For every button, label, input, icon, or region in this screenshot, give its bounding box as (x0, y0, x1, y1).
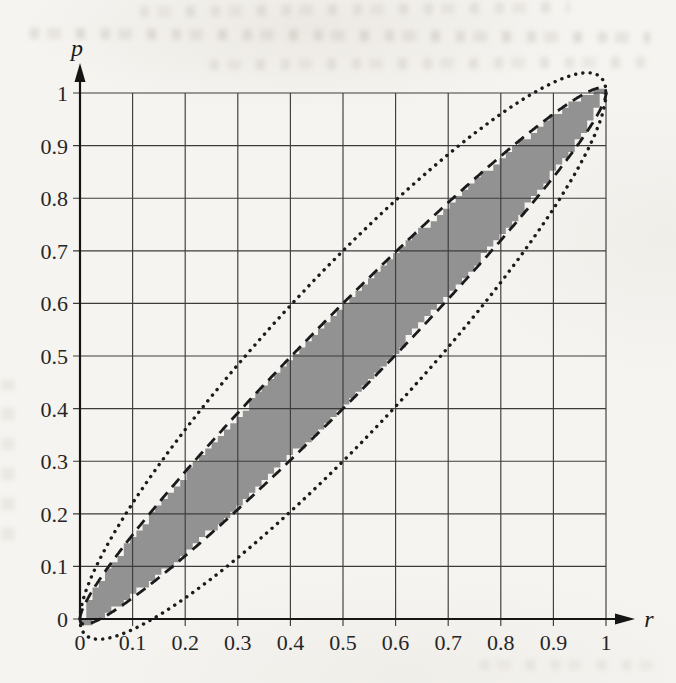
scanned-book-page: 00.10.20.30.40.50.60.70.80.9100.10.20.30… (0, 0, 676, 683)
y-axis-arrowhead (75, 63, 86, 82)
x-tick-label: 0.5 (329, 630, 357, 655)
y-tick-label: 0.3 (41, 449, 69, 474)
y-tick-label: 0.6 (41, 291, 69, 316)
y-tick-label: 1 (57, 81, 68, 106)
y-tick-label: 0 (57, 607, 68, 632)
y-tick-label: 0.9 (41, 134, 69, 159)
x-tick-label: 0.7 (434, 630, 462, 655)
y-tick-label: 0.8 (41, 186, 69, 211)
y-tick-label: 0.7 (41, 239, 69, 264)
x-tick-label: 0.3 (224, 630, 252, 655)
y-tick-label: 0.4 (41, 397, 69, 422)
confidence-band-plot: 00.10.20.30.40.50.60.70.80.9100.10.20.30… (0, 0, 676, 683)
x-tick-label: 1 (601, 630, 612, 655)
y-axis-label: p (69, 35, 83, 61)
y-tick-label: 0.2 (41, 502, 69, 527)
x-tick-label: 0.2 (171, 630, 199, 655)
x-tick-label: 0.9 (540, 630, 568, 655)
x-tick-label: 0.4 (277, 630, 305, 655)
x-axis-label: r (644, 606, 654, 632)
x-tick-label: 0.6 (382, 630, 410, 655)
x-axis-arrowhead (615, 614, 635, 625)
x-tick-label: 0.8 (487, 630, 515, 655)
y-tick-label: 0.5 (41, 344, 69, 369)
y-tick-label: 0.1 (41, 554, 69, 579)
